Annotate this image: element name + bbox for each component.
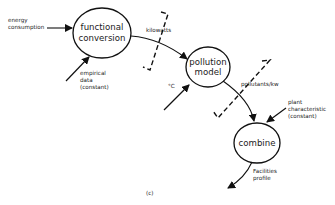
kilowatts-label: kilowatts [146, 27, 171, 33]
node-functional-conversion: functional conversion [73, 8, 131, 58]
kilowatts-arrow-icon [131, 36, 187, 59]
plant-characteristic-arrow-icon [267, 108, 286, 122]
plant-characteristic-label-line2: characteristic [288, 106, 326, 112]
functional-conversion-label-line2: conversion [79, 33, 126, 43]
facilities-profile-arrow-icon [228, 162, 252, 188]
pollutants-per-kw-label: pollutants/kw [241, 81, 279, 88]
node-combine: combine [234, 123, 280, 163]
empirical-data-input: empirical data (constant) [66, 57, 109, 90]
plant-characteristic-label-line3: (constant) [288, 113, 317, 119]
energy-consumption-label-line1: energy [8, 17, 28, 24]
energy-consumption-input: energy consumption [8, 17, 72, 31]
plant-characteristic-label-line1: plant [288, 99, 303, 106]
facilities-profile-label-line2: profile [253, 175, 271, 182]
pollutants-per-kw-arrow-icon [223, 81, 254, 121]
temperature-input: °C [164, 83, 189, 110]
energy-consumption-label-line2: consumption [8, 24, 45, 31]
functional-conversion-label-line1: functional [81, 22, 124, 32]
temperature-label: °C [168, 83, 175, 89]
empirical-data-label-line2: data [80, 77, 93, 83]
plant-characteristic-input: plant characteristic (constant) [267, 99, 326, 122]
pollutants-per-kw-flow: pollutants/kw [223, 81, 279, 121]
empirical-data-label-line3: (constant) [80, 84, 109, 90]
facilities-profile-label-line1: Facilities [253, 168, 277, 174]
dataflow-diagram: energy consumption functional conversion… [0, 0, 335, 205]
kilowatts-flow: kilowatts [131, 27, 187, 59]
pollution-model-label-line1: pollution [189, 57, 226, 67]
empirical-data-label-line1: empirical [80, 70, 106, 77]
facilities-profile-output: Facilities profile [228, 162, 277, 188]
figure-caption: (c) [146, 190, 153, 196]
combine-label: combine [239, 138, 276, 148]
pollution-model-label-line2: model [195, 67, 222, 77]
